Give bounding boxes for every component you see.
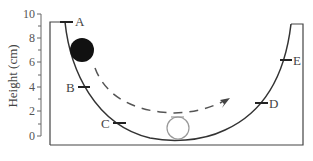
svg-text:B: B: [66, 80, 75, 95]
svg-text:A: A: [75, 14, 85, 29]
tick-0: 0: [29, 129, 35, 143]
tick-2: 2: [29, 104, 35, 118]
track-diagram: 0 2 4 6 8 10 Height (cm) A B C D E: [0, 0, 313, 161]
point-e: E: [280, 53, 301, 68]
y-axis-title: Height (cm): [5, 44, 20, 107]
tick-8: 8: [29, 31, 35, 45]
dashed-path: [95, 68, 222, 113]
point-b: B: [66, 80, 90, 95]
y-axis: 0 2 4 6 8 10 Height (cm): [5, 7, 41, 143]
tick-10: 10: [23, 7, 35, 21]
svg-text:D: D: [269, 96, 278, 111]
outline-ball: [167, 117, 189, 139]
point-a: A: [60, 14, 85, 29]
tick-4: 4: [29, 80, 35, 94]
tick-6: 6: [29, 55, 35, 69]
ball: [70, 38, 94, 62]
point-d: D: [255, 96, 278, 111]
svg-text:E: E: [293, 53, 301, 68]
svg-text:C: C: [101, 116, 110, 131]
point-c: C: [101, 116, 126, 131]
